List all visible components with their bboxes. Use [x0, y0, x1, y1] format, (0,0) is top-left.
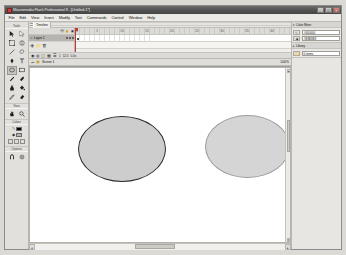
outline-icon[interactable]: ▣ [70, 29, 74, 33]
timeline-tab[interactable]: Timeline [33, 22, 51, 28]
menu-item-insert[interactable]: Insert [43, 14, 55, 22]
text-tool[interactable] [17, 57, 27, 66]
main-body: Tools [5, 22, 341, 249]
flash-app-icon [7, 8, 12, 13]
chevron-down-icon[interactable]: ▾ [293, 23, 295, 27]
onion-outline-button[interactable]: ▢ [41, 54, 45, 58]
gradient-transform-tool[interactable] [17, 39, 27, 48]
fill-color-icon[interactable]: ◆ [293, 36, 300, 41]
scene-icon: ▣ [36, 60, 40, 64]
line-tool[interactable] [7, 48, 17, 57]
selection-tool[interactable] [7, 30, 17, 39]
lasso-tool[interactable] [17, 48, 27, 57]
pencil-tool[interactable] [7, 75, 17, 84]
modify-onion-markers-button[interactable]: ☰ [53, 54, 57, 58]
layer-outline-dot[interactable] [72, 37, 74, 39]
free-transform-tool[interactable] [7, 39, 17, 48]
color-mixer-fill-row[interactable]: ◆ #B3B3B3 [293, 35, 340, 41]
menu-item-text[interactable]: Text [73, 14, 83, 22]
new-folder-button[interactable]: 📁 [36, 44, 40, 48]
layer-row[interactable]: ✎ Layer 1 [29, 35, 74, 42]
dock-empty-area [292, 58, 341, 249]
playhead[interactable] [75, 28, 76, 52]
delete-layer-button[interactable]: 🗑 [42, 44, 47, 48]
toolbox-colors: ✎ ◆ [6, 126, 28, 145]
toolbox-tools-grid [6, 30, 28, 102]
onion-skin-button[interactable]: ◍ [36, 54, 39, 58]
scroll-up-arrow[interactable]: ▴ [287, 69, 291, 73]
brush-tool[interactable] [17, 75, 27, 84]
frame-cell[interactable] [145, 35, 150, 41]
subselection-tool[interactable] [17, 30, 27, 39]
menu-item-help[interactable]: Help [146, 14, 157, 22]
frame-tick[interactable] [290, 28, 291, 34]
frame-rate-indicator[interactable]: 12.0 [63, 54, 69, 58]
close-button[interactable]: × [333, 7, 340, 13]
black-and-white-icon[interactable] [8, 139, 13, 144]
stage-horizontal-scrollbar[interactable]: ◂ ▸ [29, 243, 291, 249]
stage-canvas[interactable]: ▴ ▾ [29, 67, 291, 243]
menu-item-edit[interactable]: Edit [18, 14, 28, 22]
menu-item-file[interactable]: File [7, 14, 16, 22]
frame-strip-empty[interactable] [75, 42, 291, 49]
frames-column[interactable]: 1 5 10 [75, 28, 291, 52]
horizontal-scroll-track[interactable] [35, 244, 285, 250]
menu-item-commands[interactable]: Commands [85, 14, 108, 22]
stroke-color-value[interactable]: #000000 [302, 30, 341, 35]
layer-buttons-row: ➕ 📁 🗑 [29, 42, 74, 49]
back-arrow-icon[interactable]: ↩ [31, 60, 34, 65]
no-color-icon[interactable] [14, 139, 19, 144]
pen-tool[interactable] [7, 57, 17, 66]
layer-name-label: Layer 1 [34, 36, 65, 40]
eyedropper-tool[interactable] [7, 93, 17, 102]
menu-item-modify[interactable]: Modify [57, 14, 71, 22]
playhead-knob[interactable] [75, 28, 78, 31]
frame-strip-layer-1[interactable] [75, 35, 291, 42]
new-layer-button[interactable]: ➕ [30, 44, 34, 48]
library-count-row: 📁 0 items [293, 50, 340, 56]
horizontal-scroll-thumb[interactable] [135, 244, 175, 249]
rectangle-tool[interactable] [17, 66, 27, 75]
stage-area: ▴ ▾ [29, 66, 291, 243]
stroke-color-icon[interactable]: ✎ [293, 30, 300, 35]
title-bar[interactable]: Macromedia Flash Professional 8 - [Untit… [5, 6, 341, 14]
eye-icon[interactable]: 👁 [60, 29, 64, 33]
object-drawing-option[interactable] [17, 152, 27, 161]
snap-to-objects-option[interactable] [7, 152, 17, 161]
hand-tool[interactable] [7, 109, 17, 118]
swap-colors-icon[interactable] [20, 139, 25, 144]
vertical-scroll-thumb[interactable] [287, 120, 291, 151]
scroll-down-arrow[interactable]: ▾ [287, 238, 291, 242]
menu-item-view[interactable]: View [30, 14, 41, 22]
fill-color-value[interactable]: #B3B3B3 [302, 36, 341, 41]
maximize-button[interactable]: □ [325, 7, 332, 13]
fill-color-swatch[interactable] [16, 133, 22, 137]
center-frame-button[interactable]: ◉ [31, 54, 34, 58]
ink-bottle-tool[interactable] [7, 84, 17, 93]
oval-tool[interactable] [7, 66, 17, 75]
zoom-tool[interactable] [17, 109, 27, 118]
pencil-icon: ✎ [30, 36, 33, 40]
layer-visible-dot[interactable] [66, 37, 68, 39]
color-mixer-panel: ▾ Color Mixer ✎ #000000 ◆ #B3B3B3 [292, 22, 341, 43]
layer-lock-dot[interactable] [69, 37, 71, 39]
ellipse-left[interactable] [78, 116, 166, 182]
library-icon[interactable]: 📁 [293, 51, 300, 56]
edit-multiple-frames-button[interactable]: ▦ [47, 54, 51, 58]
ellipse-right[interactable] [205, 115, 290, 178]
lock-icon[interactable]: 🔒 [65, 29, 69, 33]
window-title: Macromedia Flash Professional 8 - [Untit… [13, 6, 316, 14]
minimize-button[interactable]: _ [317, 7, 324, 13]
zoom-level-value[interactable]: 100% [280, 60, 289, 64]
stage-vertical-scrollbar[interactable]: ▴ ▾ [285, 68, 290, 242]
library-body: 📁 0 items [292, 49, 341, 57]
menu-item-control[interactable]: Control [110, 14, 125, 22]
stroke-color-swatch[interactable] [16, 127, 22, 131]
scene-name-label[interactable]: Scene 1 [42, 60, 55, 64]
right-dock: ▾ Color Mixer ✎ #000000 ◆ #B3B3B3 [291, 22, 341, 249]
eraser-tool[interactable] [17, 93, 27, 102]
paint-bucket-tool[interactable] [17, 84, 27, 93]
chevron-right-icon[interactable]: ▸ [293, 44, 295, 48]
menu-item-window[interactable]: Window [127, 14, 144, 22]
frame-ruler[interactable]: 1 5 10 [75, 28, 291, 35]
